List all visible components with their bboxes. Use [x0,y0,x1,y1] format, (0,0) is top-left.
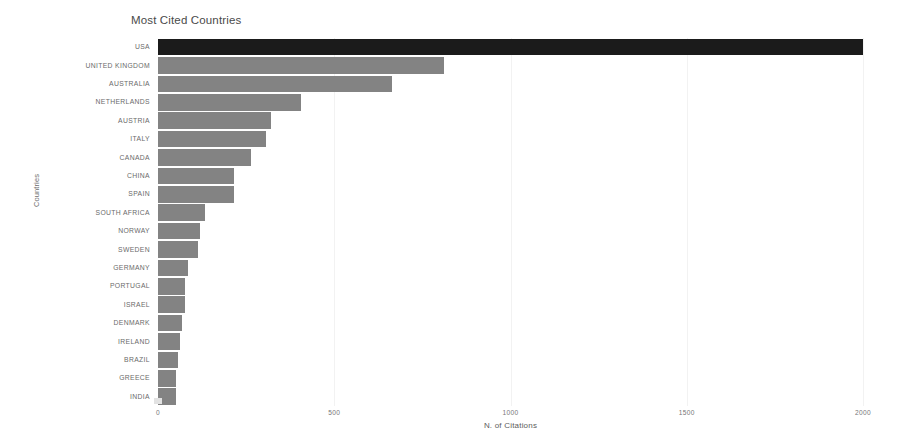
bar [158,223,200,240]
bar [158,131,266,148]
y-tick-label-norway: NORWAY [0,227,150,234]
bar-row [158,296,863,314]
bar [158,370,176,387]
bar-row [158,56,863,74]
bar [158,186,234,203]
bar [158,112,271,129]
bar-row [158,167,863,185]
y-tick-label-brazil: BRAZIL [0,356,150,363]
chart-title: Most Cited Countries [131,14,241,26]
bar [158,296,185,313]
y-axis-tick-labels: USAUNITED KINGDOMAUSTRALIANETHERLANDSAUS… [0,38,150,406]
y-tick-label-greece: GREECE [0,374,150,381]
bar [158,333,180,350]
bar [158,278,185,295]
bar [158,39,863,56]
plot-area [158,38,863,406]
bar-row [158,314,863,332]
bar-row [158,185,863,203]
bar [158,315,182,332]
bar-row [158,332,863,350]
bar [158,149,251,166]
y-tick-label-usa: USA [0,43,150,50]
y-tick-label-spain: SPAIN [0,190,150,197]
y-tick-label-israel: ISRAEL [0,301,150,308]
y-tick-label-sweden: SWEDEN [0,246,150,253]
bar-row [158,388,863,406]
origin-marker-artifact [154,398,162,404]
bar [158,168,234,185]
bar-row [158,204,863,222]
y-tick-label-australia: AUSTRALIA [0,80,150,87]
bar [158,94,301,111]
x-tick-label-1500: 1500 [657,409,717,416]
y-tick-label-italy: ITALY [0,135,150,142]
bar-row [158,75,863,93]
y-tick-label-netherlands: NETHERLANDS [0,98,150,105]
y-tick-label-portugal: PORTUGAL [0,282,150,289]
y-tick-label-south-africa: SOUTH AFRICA [0,209,150,216]
y-tick-label-austria: AUSTRIA [0,117,150,124]
bar-row [158,277,863,295]
y-tick-label-china: CHINA [0,172,150,179]
bar-row [158,130,863,148]
bar-row [158,112,863,130]
y-tick-label-ireland: IRELAND [0,338,150,345]
bar-row [158,148,863,166]
bar [158,352,178,369]
bar [158,57,444,74]
x-tick-label-1000: 1000 [481,409,541,416]
bar-row [158,222,863,240]
y-tick-label-germany: GERMANY [0,264,150,271]
bar [158,241,198,258]
bar-row [158,259,863,277]
bar [158,204,205,221]
x-axis-title: N. of Citations [158,421,863,430]
bar-row [158,38,863,56]
y-tick-label-canada: CANADA [0,154,150,161]
x-tick-label-2000: 2000 [833,409,893,416]
x-tick-label-0: 0 [128,409,188,416]
bar-row [158,351,863,369]
y-tick-label-india: INDIA [0,393,150,400]
bar [158,76,392,93]
bar-row [158,240,863,258]
bar-row [158,93,863,111]
bar-row [158,369,863,387]
y-tick-label-denmark: DENMARK [0,319,150,326]
y-tick-label-united-kingdom: UNITED KINGDOM [0,62,150,69]
bar [158,260,188,277]
gridline [863,38,864,406]
chart-container: Most Cited Countries Countries USAUNITED… [0,0,923,448]
x-tick-label-500: 500 [304,409,364,416]
